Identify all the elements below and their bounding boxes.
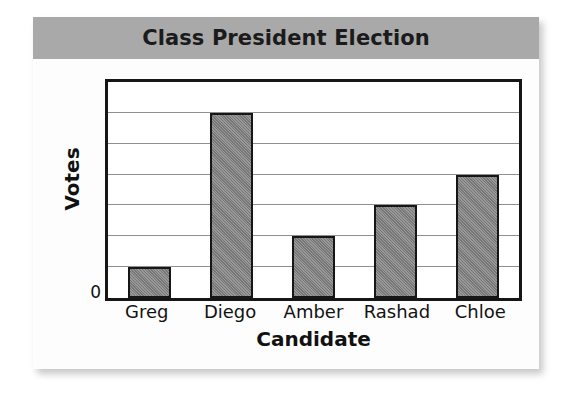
bar-slot (272, 82, 354, 298)
y-axis-title: Votes (60, 134, 84, 224)
x-tick-label-diego: Diego (188, 301, 271, 322)
x-tick-label-chloe: Chloe (439, 301, 522, 322)
bar-amber (292, 236, 335, 298)
x-tick-label-amber: Amber (272, 301, 355, 322)
bar-slot (355, 82, 437, 298)
bar-slot (437, 82, 519, 298)
x-axis-title: Candidate (105, 327, 522, 351)
x-axis-tick-labels: GregDiegoAmberRashadChloe (105, 301, 522, 322)
chart-card: Class President Election Votes 0 GregDie… (33, 17, 539, 369)
plot-area (105, 79, 522, 301)
bar-slot (190, 82, 272, 298)
bar-rashad (374, 205, 417, 298)
y-axis-tick-label-0: 0 (85, 282, 101, 302)
bar-chloe (456, 175, 499, 298)
page-title: Class President Election (142, 26, 430, 50)
x-tick-label-rashad: Rashad (355, 301, 438, 322)
bar-slot (108, 82, 190, 298)
bar-greg (128, 267, 171, 298)
chart-title-banner: Class President Election (33, 17, 539, 59)
x-tick-label-greg: Greg (105, 301, 188, 322)
bar-diego (210, 113, 253, 298)
bars-layer (108, 82, 519, 298)
